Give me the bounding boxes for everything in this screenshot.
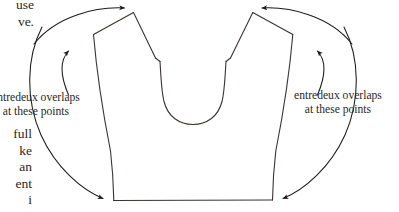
left-shoulder-left-edge	[94, 13, 134, 35]
left-shoulder-inner-edge	[134, 13, 156, 59]
callout-right-line2: at these points	[294, 103, 382, 117]
arrow-to-left-armhole-notch	[62, 51, 68, 95]
callout-label-left: entredeux overlaps at these points	[0, 91, 80, 119]
body-text-top: use ve.	[0, 0, 34, 30]
callout-right-line1: entredeux overlaps	[294, 89, 382, 103]
body-text-bottom: full ke an ent i	[0, 126, 32, 209]
left-armhole-notch	[156, 58, 161, 62]
right-side-seam	[273, 35, 293, 201]
neckline-curve	[160, 62, 226, 125]
hem-line	[114, 200, 273, 201]
callout-left-line1: entredeux overlaps	[0, 91, 80, 105]
right-armhole-notch	[226, 58, 231, 62]
pattern-diagram-page: use ve. full ke an ent i entredeux overl…	[0, 0, 399, 212]
arrow-to-left-shoulder-peak	[34, 8, 125, 44]
garment-outline	[94, 13, 293, 201]
left-side-seam	[94, 35, 114, 201]
right-shoulder-inner-edge	[231, 13, 253, 59]
callout-left-line2: at these points	[0, 105, 80, 119]
right-shoulder-right-edge	[253, 13, 293, 35]
callout-label-right: entredeux overlaps at these points	[294, 89, 382, 117]
arrow-to-right-shoulder-peak	[262, 8, 352, 44]
